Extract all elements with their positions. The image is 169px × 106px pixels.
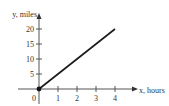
x-tick-label: 3 [94, 94, 98, 103]
y-tick-label: 5 [30, 70, 34, 79]
x-tick-label: 1 [56, 94, 60, 103]
origin-label: 0 [32, 94, 36, 103]
y-axis-arrow-icon [37, 13, 42, 19]
x-axis-arrow-icon [132, 87, 138, 92]
y-axis-label: y, miles [12, 10, 37, 19]
data-line [39, 29, 115, 89]
y-tick-label: 20 [26, 25, 34, 34]
x-axis-label: x, hours [139, 86, 165, 95]
y-tick-label: 10 [26, 55, 34, 64]
x-tick-label: 4 [113, 94, 117, 103]
y-tick-label: 15 [26, 40, 34, 49]
x-tick-label: 2 [75, 94, 79, 103]
origin-point-marker [37, 87, 42, 92]
line-chart: 1 2 3 4 0 5 10 15 20 y, miles x, hours [0, 0, 169, 106]
